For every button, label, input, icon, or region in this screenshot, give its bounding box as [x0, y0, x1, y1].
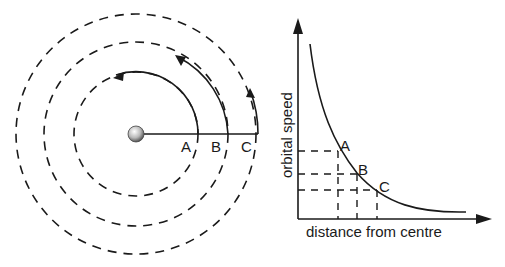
arc-a: [116, 72, 198, 134]
x-axis-arrow-icon: [476, 214, 492, 224]
speed-distance-graph: A B C orbital speed distance from centre: [278, 18, 492, 240]
orbit-label-b: B: [211, 138, 221, 155]
y-axis-arrow-icon: [293, 18, 303, 34]
orbit-diagram: A B C: [16, 14, 258, 254]
point-label-c: C: [379, 178, 390, 195]
orbit-label-a: A: [181, 138, 191, 155]
x-axis-label: distance from centre: [306, 223, 442, 240]
y-axis-label: orbital speed: [278, 92, 295, 178]
arrowhead-a-icon: [113, 72, 124, 81]
point-label-a: A: [340, 137, 350, 154]
point-label-b: B: [358, 161, 368, 178]
diagram-canvas: A B C A B C orbital speed distance from …: [0, 0, 505, 267]
orbit-label-c: C: [241, 138, 252, 155]
central-body: [128, 126, 144, 142]
